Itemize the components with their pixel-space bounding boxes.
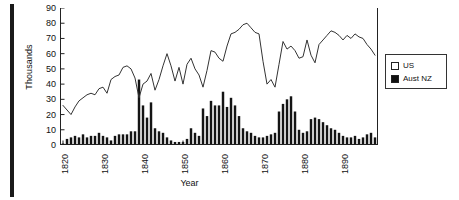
bar — [282, 104, 284, 145]
bar — [346, 137, 348, 145]
bar — [154, 128, 156, 145]
bar — [258, 137, 260, 145]
bar — [218, 105, 220, 145]
bar — [318, 119, 320, 145]
x-axis-label-text: Year — [180, 178, 198, 188]
bar — [86, 137, 88, 145]
bar — [250, 133, 252, 145]
bar — [202, 108, 204, 145]
bar — [150, 102, 152, 145]
bar — [198, 136, 200, 145]
bar — [298, 130, 300, 145]
bar — [354, 136, 356, 145]
bar — [82, 134, 84, 145]
bar — [214, 105, 216, 145]
bar — [122, 134, 124, 145]
bar — [138, 80, 140, 145]
bar — [362, 137, 364, 145]
bar — [242, 128, 244, 145]
bar — [274, 133, 276, 145]
x-tick-label: 1860 — [220, 154, 230, 174]
bar — [314, 118, 316, 145]
bar — [322, 122, 324, 145]
bar — [98, 133, 100, 145]
bar — [338, 133, 340, 145]
x-tick-label: 1820 — [60, 154, 70, 174]
bar — [146, 118, 148, 145]
x-tick-label: 1830 — [100, 154, 110, 174]
bar — [210, 101, 212, 145]
bar — [350, 137, 352, 145]
bar — [90, 136, 92, 145]
bar — [266, 136, 268, 145]
bar — [114, 136, 116, 145]
bar — [290, 96, 292, 145]
legend-label-aust-nz: Aust NZ — [403, 75, 432, 83]
plot-area — [60, 8, 378, 145]
chart-legend: US Aust NZ — [385, 54, 447, 89]
bar — [234, 105, 236, 145]
y-tick-label: 0 — [38, 140, 56, 150]
bar — [366, 134, 368, 145]
bar — [306, 131, 308, 145]
bar — [78, 137, 80, 145]
y-tick-label: 70 — [38, 33, 56, 43]
y-axis-tick-labels: 0102030405060708090 — [36, 8, 56, 145]
legend-item-us: US — [391, 59, 446, 72]
bar — [126, 134, 128, 145]
y-tick-label: 80 — [38, 18, 56, 28]
bar — [130, 131, 132, 145]
bar — [326, 125, 328, 145]
legend-item-aust-nz: Aust NZ — [391, 72, 446, 85]
bar — [246, 131, 248, 145]
bar — [310, 119, 312, 145]
bar — [374, 137, 376, 145]
y-axis-ticks — [61, 8, 65, 145]
bar — [222, 92, 224, 145]
legend-swatch-aust-nz-icon — [391, 75, 399, 83]
bar — [206, 116, 208, 145]
y-tick-label: 30 — [38, 94, 56, 104]
bar — [134, 131, 136, 145]
bar — [334, 130, 336, 145]
y-tick-label: 10 — [38, 125, 56, 135]
bar — [270, 134, 272, 145]
page-edge-rule — [10, 4, 14, 197]
plot-svg — [60, 8, 378, 145]
bar — [370, 133, 372, 145]
bar-series-aust-nz — [62, 80, 376, 145]
bar — [70, 137, 72, 145]
x-axis-label: Year — [0, 178, 459, 188]
bar — [286, 99, 288, 145]
bar — [238, 116, 240, 145]
bar — [158, 131, 160, 145]
legend-label-us: US — [403, 62, 414, 70]
x-tick-label: 1850 — [180, 154, 190, 174]
x-tick-label: 1890 — [340, 154, 350, 174]
bar — [94, 136, 96, 145]
bar — [166, 137, 168, 145]
y-tick-label: 90 — [38, 3, 56, 13]
bar — [194, 133, 196, 145]
bar — [162, 133, 164, 145]
bar — [230, 98, 232, 145]
bar — [74, 136, 76, 145]
y-tick-label: 50 — [38, 64, 56, 74]
y-tick-label: 60 — [38, 49, 56, 59]
y-axis-label: Thousands — [24, 24, 34, 110]
x-axis-tick-labels: 18201830184018501860187018801890 — [60, 149, 378, 175]
chart-figure: Thousands 0102030405060708090 1820183018… — [0, 0, 459, 200]
line-series-us — [63, 23, 375, 114]
x-tick-label: 1880 — [300, 154, 310, 174]
x-tick-label: 1870 — [260, 154, 270, 174]
bar — [294, 112, 296, 145]
bar — [330, 128, 332, 145]
bar — [106, 137, 108, 145]
bar — [142, 105, 144, 145]
bar — [118, 134, 120, 145]
bar — [190, 128, 192, 145]
bar — [226, 107, 228, 145]
bar — [254, 136, 256, 145]
x-tick-label: 1840 — [140, 154, 150, 174]
legend-swatch-us-icon — [391, 62, 399, 70]
